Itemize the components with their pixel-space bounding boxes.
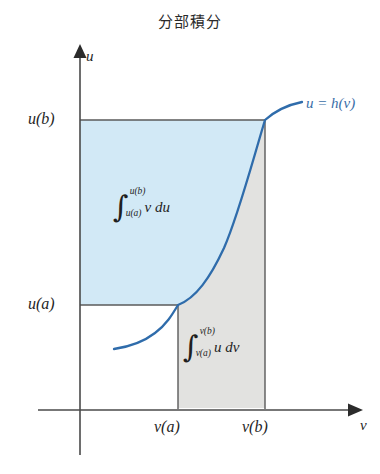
integrand: u dv [214, 339, 239, 356]
tick-label-v-b: v(b) [242, 418, 268, 436]
plot-canvas [0, 0, 380, 474]
integral-expression-u-dv: ∫ v(b) v(a) u dv [183, 332, 239, 362]
y-axis-label: u [86, 48, 94, 65]
x-axis-label: v [360, 417, 367, 434]
integral-expression-v-du: ∫ u(b) u(a) v du [113, 192, 170, 222]
y-axis-arrow-icon [74, 44, 87, 58]
gray-region-integral-label: ∫ v(b) v(a) u dv [183, 332, 239, 362]
integral-limits: v(b) v(a) [197, 336, 212, 356]
tick-label-u-b: u(b) [28, 110, 55, 128]
integral-lower-limit: u(a) [126, 209, 142, 219]
integral-upper-limit: u(b) [130, 187, 146, 197]
tick-label-u-a: u(a) [28, 295, 55, 313]
integral-upper-limit: v(b) [200, 327, 215, 337]
blue-region-integral-label: ∫ u(b) u(a) v du [113, 192, 170, 222]
integral-limits: u(b) u(a) [127, 196, 143, 216]
x-axis-arrow-icon [348, 404, 363, 417]
curve-label: u = h(v) [306, 95, 355, 112]
integration-by-parts-figure: 分部積分 u v u(b) u(a) v(a) v(b) u = h(v) [0, 0, 380, 474]
integrand: v du [144, 199, 169, 216]
tick-label-v-a: v(a) [154, 418, 180, 436]
integral-lower-limit: v(a) [196, 349, 211, 359]
